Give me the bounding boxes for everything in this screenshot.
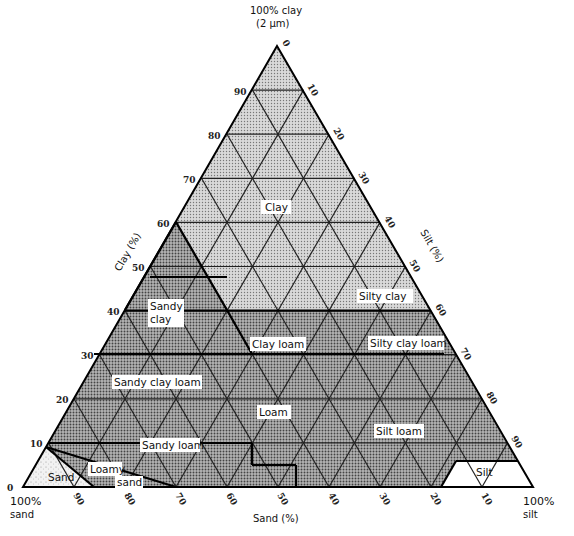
label-loam: Loam (259, 406, 288, 418)
label-silt-loam: Silt loam (376, 425, 422, 437)
label-sandy-loam: Sandy loam (142, 439, 204, 451)
svg-text:70: 70 (173, 491, 188, 507)
label-sandy-clay-loam: Sandy clay loam (114, 376, 201, 388)
right-vertex-sublabel: silt (523, 509, 538, 520)
label-loamy-sand-1: Loamy (90, 463, 125, 475)
silt-axis-label: Silt (%) (418, 228, 446, 265)
svg-text:20: 20 (331, 126, 346, 142)
sand-axis-ticks: 90 80 70 60 50 40 30 20 10 (71, 491, 494, 507)
svg-text:40: 40 (107, 307, 120, 317)
label-clay: Clay (265, 201, 288, 213)
svg-text:80: 80 (208, 131, 221, 141)
left-vertex-label: 100% (10, 495, 41, 508)
svg-text:70: 70 (458, 346, 473, 362)
top-vertex-sublabel: (2 μm) (256, 18, 290, 29)
svg-text:50: 50 (407, 258, 422, 274)
svg-text:50: 50 (275, 491, 290, 507)
svg-text:30: 30 (377, 491, 392, 507)
label-loamy-sand-2: sand (117, 476, 142, 488)
svg-text:60: 60 (433, 302, 448, 318)
label-sandy-clay-1: Sandy (150, 300, 183, 312)
svg-text:80: 80 (484, 390, 499, 406)
svg-text:10: 10 (479, 491, 494, 507)
sand-axis-label: Sand (%) (253, 513, 299, 524)
label-silty-clay-loam: Silty clay loam (370, 337, 447, 349)
svg-text:10: 10 (30, 439, 43, 449)
svg-text:20: 20 (428, 491, 443, 507)
svg-text:30: 30 (356, 170, 371, 186)
soil-texture-triangle: Clay Silty clay Sandy clay Clay loam Sil… (0, 0, 574, 536)
label-silty-clay: Silty clay (359, 290, 407, 302)
label-sandy-clay-2: clay (150, 313, 171, 325)
svg-text:10: 10 (305, 82, 320, 98)
svg-text:0: 0 (7, 483, 13, 493)
svg-text:40: 40 (326, 491, 341, 507)
svg-text:0: 0 (280, 38, 292, 48)
svg-text:90: 90 (509, 434, 524, 450)
svg-text:50: 50 (132, 263, 145, 273)
top-vertex-label: 100% clay (250, 5, 302, 16)
svg-text:80: 80 (122, 491, 137, 507)
svg-text:70: 70 (183, 175, 196, 185)
right-vertex-label: 100% (523, 495, 554, 508)
label-sand: Sand (48, 471, 74, 483)
svg-text:30: 30 (81, 351, 94, 361)
svg-text:90: 90 (234, 87, 247, 97)
svg-text:20: 20 (56, 395, 69, 405)
svg-text:60: 60 (224, 491, 239, 507)
label-silt: Silt (476, 466, 493, 478)
svg-text:60: 60 (157, 219, 170, 229)
svg-text:40: 40 (382, 214, 397, 230)
left-vertex-sublabel: sand (10, 509, 34, 520)
label-clay-loam: Clay loam (252, 338, 304, 350)
svg-text:90: 90 (71, 491, 86, 507)
